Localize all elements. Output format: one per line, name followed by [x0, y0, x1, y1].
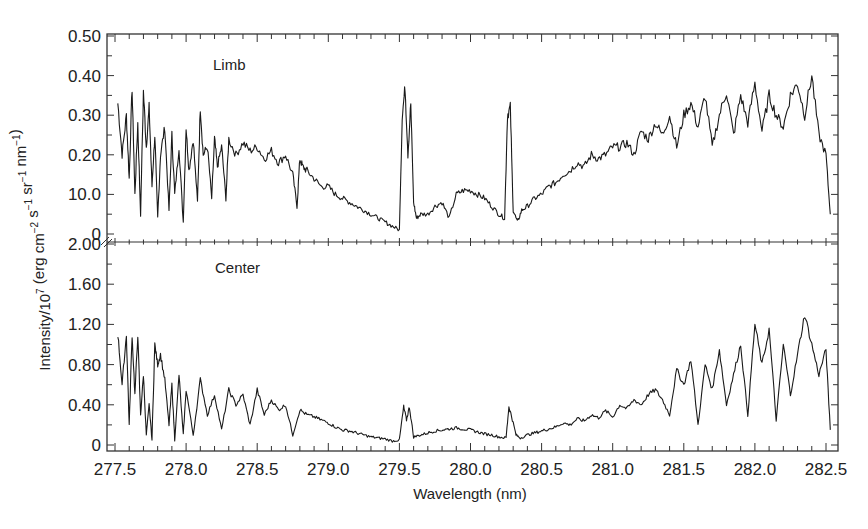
- limb-panel-label: Limb: [213, 56, 246, 73]
- y-tick-label: 0: [92, 436, 101, 455]
- x-tick-label: 281.0: [591, 460, 634, 479]
- y-tick-label: 0.40: [68, 396, 101, 415]
- y-tick-label: 0.80: [68, 356, 101, 375]
- y-tick-label: 0.40: [68, 67, 101, 86]
- x-tick-label: 280.5: [520, 460, 563, 479]
- spectrum-chart: 010.00.200.300.400.50 00.400.801.201.602…: [0, 0, 868, 529]
- x-tick-label: 277.5: [94, 460, 137, 479]
- x-axis-title: Wavelength (nm): [413, 485, 527, 502]
- x-tick-label: 281.5: [663, 460, 706, 479]
- x-tick-label: 282.5: [805, 460, 848, 479]
- y-tick-label: 10.0: [68, 185, 101, 204]
- center-spectrum-line: [118, 318, 831, 442]
- y-tick-label: 0.50: [68, 27, 101, 46]
- y-tick-label: 2.00: [68, 235, 101, 254]
- y-tick-label: 0.30: [68, 106, 101, 125]
- y-tick-label: 1.20: [68, 315, 101, 334]
- limb-spectrum-line: [118, 76, 831, 231]
- x-tick-label: 279.5: [378, 460, 421, 479]
- y-tick-label: 0.20: [68, 146, 101, 165]
- center-y-axis: 00.400.801.201.602.00: [68, 235, 838, 455]
- x-tick-label: 278.0: [165, 460, 208, 479]
- x-tick-label: 278.5: [236, 460, 279, 479]
- x-tick-label: 282.0: [734, 460, 777, 479]
- plot-frame: [101, 34, 838, 451]
- center-panel-label: Center: [215, 259, 260, 276]
- x-tick-label: 280.0: [449, 460, 492, 479]
- y-axis-title: Intensity/107 (erg cm−2 s−1 sr−1 nm−1): [6, 129, 53, 370]
- x-tick-label: 279.0: [307, 460, 350, 479]
- y-tick-label: 1.60: [68, 275, 101, 294]
